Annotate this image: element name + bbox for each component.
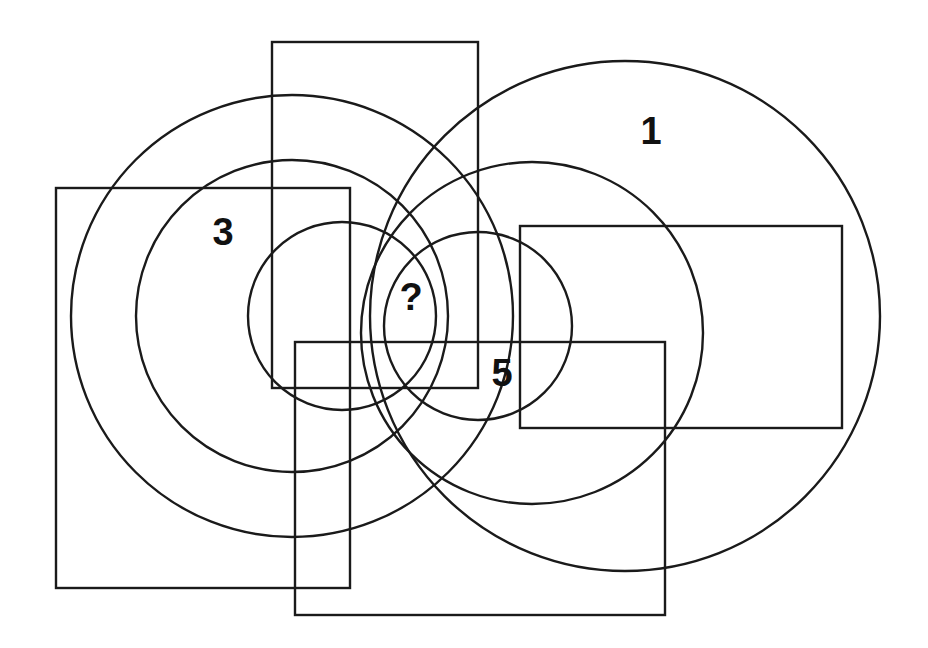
region-label-1: 1 bbox=[640, 110, 661, 152]
rectangle-right bbox=[520, 226, 842, 428]
labels-group: 1 3 ? 5 bbox=[212, 110, 661, 394]
circle-right-outer bbox=[370, 61, 880, 571]
region-label-5: 5 bbox=[491, 352, 512, 394]
circle-right-middle bbox=[361, 162, 703, 504]
puzzle-diagram: 1 3 ? 5 bbox=[0, 0, 928, 648]
region-label-3: 3 bbox=[212, 211, 233, 253]
circle-left-outer bbox=[71, 95, 513, 537]
circles-group bbox=[71, 61, 880, 571]
region-label-question: ? bbox=[399, 276, 422, 318]
